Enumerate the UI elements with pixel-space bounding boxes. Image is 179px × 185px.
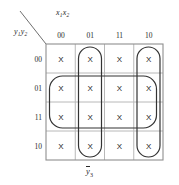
row-header-10: 10 [14, 142, 42, 151]
cell-r11-c10: X [134, 113, 164, 122]
cell-r01-c00: X [46, 84, 76, 93]
cell-r11-c01: X [75, 113, 105, 122]
cell-r00-c10: X [134, 55, 164, 64]
cell-r10-c11: X [105, 142, 135, 151]
cell-r10-c10: X [134, 142, 164, 151]
column-axis-variables-label: x1x2 [56, 9, 69, 17]
cell-r00-c00: X [46, 55, 76, 64]
cell-r10-c01: X [75, 142, 105, 151]
function-label-subscript: 3 [90, 172, 93, 178]
cell-r11-c00: X [46, 113, 76, 122]
cell-r01-c11: X [105, 84, 135, 93]
column-header-11: 11 [105, 31, 135, 40]
cell-r01-c10: X [134, 84, 164, 93]
column-header-00: 00 [46, 31, 76, 40]
function-label: y3 [0, 166, 179, 178]
cell-r10-c00: X [46, 142, 76, 151]
cell-r00-c01: X [75, 55, 105, 64]
cell-r11-c11: X [105, 113, 135, 122]
cell-r00-c11: X [105, 55, 135, 64]
row-header-00: 00 [14, 55, 42, 64]
cell-r01-c01: X [75, 84, 105, 93]
karnaugh-map-diagram: x1x2 y1y2 00 01 11 10 00 01 11 10 X X X … [0, 0, 179, 185]
row-axis-variables-label: y1y2 [14, 28, 27, 36]
row-header-01: 01 [14, 84, 42, 93]
column-header-10: 10 [134, 31, 164, 40]
row-header-11: 11 [14, 113, 42, 122]
column-header-01: 01 [75, 31, 105, 40]
